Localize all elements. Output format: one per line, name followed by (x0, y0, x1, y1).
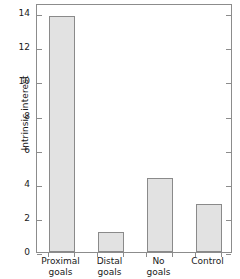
x-axis-category-label: Control (183, 256, 232, 267)
bar (98, 232, 124, 252)
y-axis-tick-mark (37, 186, 42, 187)
x-axis-category-label: Distal goals (85, 256, 134, 277)
y-axis-tick-mark (37, 49, 42, 50)
y-axis-tick-label: 4 (12, 180, 30, 189)
x-axis-category-label: No goals (134, 256, 183, 277)
y-axis-tick-mark (37, 152, 42, 153)
y-axis-tick-labels: 02468101214 (12, 0, 30, 279)
y-axis-tick-label: 10 (12, 77, 30, 86)
y-axis-tick-mark-right (226, 83, 231, 84)
y-axis-tick-mark-right (226, 220, 231, 221)
y-axis-tick-mark-right (226, 15, 231, 16)
y-axis-tick-label: 6 (12, 146, 30, 155)
bar (49, 16, 75, 252)
y-axis-tick-mark (37, 83, 42, 84)
y-axis-tick-mark-right (226, 254, 231, 255)
bar-chart: Intrinsic interest 02468101214 Proximal … (0, 0, 240, 279)
y-axis-tick-mark-right (226, 49, 231, 50)
x-axis-category-label: Proximal goals (36, 256, 85, 277)
y-axis-tick-mark-right (226, 152, 231, 153)
y-axis-tick-label: 0 (12, 248, 30, 257)
bar (196, 204, 222, 252)
y-axis-tick-mark (37, 15, 42, 16)
y-axis-tick-label: 8 (12, 112, 30, 121)
bar (147, 178, 173, 252)
plot-area (36, 4, 232, 253)
y-axis-tick-mark (37, 118, 42, 119)
y-axis-tick-mark (37, 220, 42, 221)
y-axis-tick-mark-right (226, 118, 231, 119)
y-axis-tick-label: 14 (12, 9, 30, 18)
y-axis-tick-label: 2 (12, 214, 30, 223)
y-axis-tick-mark-right (226, 186, 231, 187)
y-axis-tick-label: 12 (12, 43, 30, 52)
y-axis-tick-mark (37, 254, 42, 255)
